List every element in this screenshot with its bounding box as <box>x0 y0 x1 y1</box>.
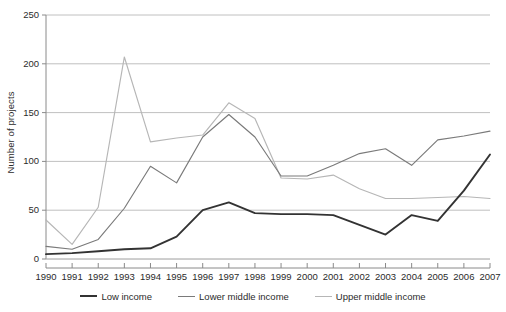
legend-item[interactable]: Lower middle income <box>178 291 289 302</box>
legend-item[interactable]: Low income <box>80 291 152 302</box>
plot-area <box>0 0 506 312</box>
series-line <box>46 115 490 250</box>
data-series <box>46 57 490 254</box>
y-tick-label: 100 <box>13 155 39 166</box>
legend-line-icon <box>80 295 97 297</box>
y-tick-label: 50 <box>13 204 39 215</box>
y-axis-ticks <box>42 15 46 259</box>
legend-item-label: Lower middle income <box>199 291 289 302</box>
chart-legend: Low incomeLower middle incomeUpper middl… <box>0 286 506 306</box>
line-chart: Number of projects 050100150200250 19901… <box>0 0 506 312</box>
legend-item[interactable]: Upper middle income <box>315 291 426 302</box>
y-axis-title: Number of projects <box>2 0 18 265</box>
legend-item-label: Low income <box>101 291 152 302</box>
series-line <box>46 57 490 244</box>
legend-line-icon <box>315 296 332 297</box>
x-axis-ticks <box>46 263 490 268</box>
legend-item-label: Upper middle income <box>336 291 426 302</box>
y-tick-label: 0 <box>13 253 39 264</box>
x-tick-label: 2007 <box>475 271 505 282</box>
y-tick-label: 150 <box>13 107 39 118</box>
axis-lines <box>46 15 490 268</box>
y-tick-label: 200 <box>13 58 39 69</box>
y-tick-label: 250 <box>13 9 39 20</box>
legend-line-icon <box>178 296 195 297</box>
series-line <box>46 155 490 255</box>
